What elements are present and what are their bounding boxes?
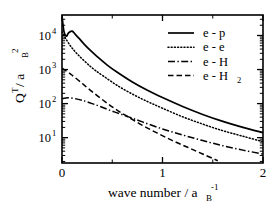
y-axis-title-superscript-2: 2 (10, 49, 20, 54)
legend-label-subscript: 2 (237, 75, 241, 85)
y-tick-mantissa: 10 (39, 97, 52, 111)
figure-container: 012 101102103104 e - pe - ee - He - H2 w… (0, 0, 278, 222)
y-axis-title-subscript: B (20, 52, 30, 58)
x-tick-label: 2 (260, 165, 267, 180)
legend-label: e - H (203, 69, 228, 83)
x-axis-title-main: wave number / a (108, 185, 198, 200)
x-tick-label: 0 (59, 165, 66, 180)
x-tick-label: 1 (159, 165, 166, 180)
y-tick-mantissa: 10 (39, 29, 52, 43)
legend-label: e - H (203, 55, 228, 69)
scattering-cross-section-chart: 012 101102103104 e - pe - ee - He - H2 w… (0, 0, 278, 222)
y-axis-title-main: Q (12, 93, 27, 103)
legend-label: e - e (203, 40, 225, 54)
x-axis-title-subscript: B (206, 193, 212, 203)
legend-label: e - p (203, 26, 225, 40)
y-tick-exponent: 2 (52, 94, 56, 104)
y-axis-title-mid: / a (12, 74, 27, 87)
y-tick-exponent: 1 (52, 128, 56, 138)
x-axis-title-superscript: -1 (211, 182, 219, 192)
y-tick-exponent: 3 (52, 60, 56, 70)
y-tick-mantissa: 10 (39, 63, 52, 77)
y-tick-mantissa: 10 (39, 131, 52, 145)
